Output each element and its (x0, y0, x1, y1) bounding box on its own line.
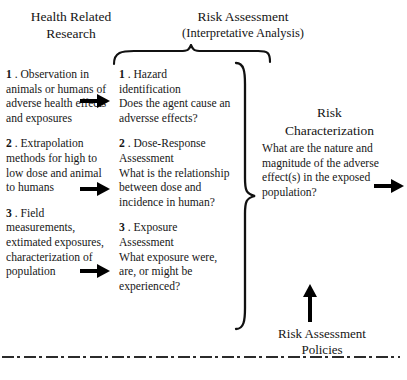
risk-characterization-heading-line1: Risk (262, 104, 397, 122)
health-related-research-heading-line1: Health Related (2, 8, 140, 25)
item-question: Does the agent cause an adversse effects… (119, 97, 231, 126)
arrow-extrapolation-to-dose-icon (80, 182, 110, 196)
risk-assessment-heading: Risk Assessment (Interpretative Analysis… (150, 8, 336, 42)
arrow-head (97, 264, 110, 278)
item-separator: . (12, 137, 21, 150)
health-related-research-heading-line2: Research (2, 25, 140, 42)
arrow-head (97, 94, 110, 108)
arrow-head (97, 182, 110, 196)
arrow-head (391, 179, 404, 193)
bottom-dash-dot-rule (2, 356, 400, 358)
item-question: What exposure were, are, or might be exp… (119, 251, 231, 295)
arrow-shaft (308, 295, 312, 322)
risk-assessment-title: Risk Assessment (150, 8, 336, 25)
curly-brace-right-icon (228, 60, 258, 332)
risk-characterization-question: What are the nature and magnitude of the… (262, 142, 390, 200)
risk-assessment-policies-heading: Risk Assessment Policies (248, 326, 396, 358)
item-separator: . (125, 68, 134, 81)
item-separator: . (12, 207, 21, 220)
risk-characterization-heading-line2: Characterization (262, 122, 397, 140)
arrow-field-to-exposure-icon (80, 264, 110, 278)
item-separator: . (125, 221, 134, 234)
risk-characterization-column: What are the nature and magnitude of the… (262, 142, 390, 200)
risk-characterization-heading: Risk Characterization (262, 104, 397, 140)
item-separator: . (12, 68, 21, 81)
risk-assessment-policies-line1: Risk Assessment (248, 326, 396, 342)
arrow-policies-up-icon (303, 284, 317, 322)
risk-assessment-diagram: Health Related Research Risk Assessment … (0, 0, 407, 380)
risk-assessment-column: 1 . Hazard identification Does the agent… (119, 68, 231, 294)
cut-off-caption (150, 368, 390, 378)
health-related-research-heading: Health Related Research (2, 8, 140, 42)
item-question: What is the relationship between dose an… (119, 167, 231, 211)
item-separator: . (125, 137, 134, 150)
list-item: 2 . Dose-Response Assessment What is the… (119, 137, 231, 210)
arrow-risk-characterization-output-icon (374, 179, 404, 193)
list-item: 1 . Hazard identification Does the agent… (119, 68, 231, 126)
arrow-observation-to-hazard-icon (80, 94, 110, 108)
list-item: 3 . Exposure Assessment What exposure we… (119, 221, 231, 294)
risk-assessment-subtitle: (Interpretative Analysis) (150, 25, 336, 42)
